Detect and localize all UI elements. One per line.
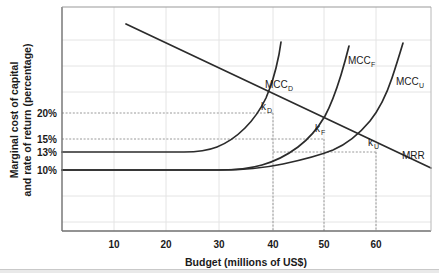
x-tick-label-10: 10 bbox=[108, 239, 120, 250]
k-u-point-label-subscript: U bbox=[374, 143, 379, 150]
x-tick-label-40: 40 bbox=[267, 239, 279, 250]
mcc-u-curve-label-subscript: U bbox=[419, 82, 424, 89]
mrr-curve-label: MRR bbox=[402, 150, 425, 161]
y-tick-label-13: 13% bbox=[37, 147, 57, 158]
y-tick-label-10: 10% bbox=[37, 165, 57, 176]
k-f-point-label-subscript: F bbox=[321, 129, 325, 136]
mcc-d-curve-label-subscript: D bbox=[288, 85, 293, 92]
mcc-u-curve-label: MCC bbox=[396, 76, 419, 87]
k-d-point-label-subscript: D bbox=[267, 107, 272, 114]
figure-bottom-rule bbox=[0, 269, 439, 273]
chart-figure: 20% 15% 13% 10% 10 20 30 40 50 60 Budget… bbox=[0, 0, 439, 273]
mcc-mrr-chart: 20% 15% 13% 10% 10 20 30 40 50 60 Budget… bbox=[0, 0, 439, 273]
y-tick-label-20: 20% bbox=[37, 108, 57, 119]
mcc-d-curve-label: MCC bbox=[265, 79, 288, 90]
x-tick-label-50: 50 bbox=[318, 239, 330, 250]
x-axis-title: Budget (millions of US$) bbox=[185, 256, 307, 268]
y-axis-title-line-1: Marginal cost of capital bbox=[8, 62, 20, 179]
mcc-f-curve-label-subscript: F bbox=[371, 61, 375, 68]
x-tick-label-30: 30 bbox=[213, 239, 225, 250]
y-tick-label-15: 15% bbox=[37, 134, 57, 145]
x-tick-label-20: 20 bbox=[160, 239, 172, 250]
y-axis-title-line-2: and rate of return (percentage) bbox=[21, 44, 33, 197]
mcc-f-curve-label: MCC bbox=[348, 55, 371, 66]
x-tick-label-60: 60 bbox=[370, 239, 382, 250]
